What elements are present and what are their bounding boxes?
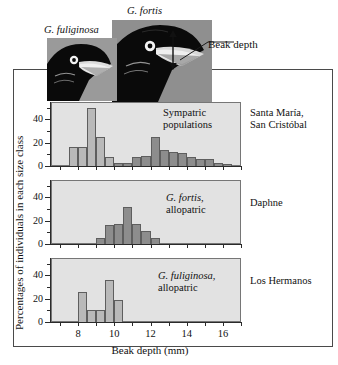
x-axis-tick bbox=[169, 322, 170, 326]
x-axis-title: Beak depth (mm) bbox=[75, 344, 225, 356]
histogram-bar bbox=[187, 157, 196, 166]
y-axis-minor-tick bbox=[47, 264, 50, 265]
histogram-bar bbox=[160, 150, 169, 166]
y-axis-minor-tick bbox=[47, 310, 50, 311]
x-axis-tick bbox=[78, 244, 79, 248]
y-axis-tick bbox=[45, 275, 50, 276]
panel-3-location: Los Hermanos bbox=[250, 275, 312, 287]
panel-2-location: Daphne bbox=[250, 197, 283, 209]
histogram-bar bbox=[151, 137, 160, 166]
x-axis-tick bbox=[60, 166, 61, 170]
y-axis-tick bbox=[45, 119, 50, 120]
panel-2-note: G. fortis, allopatric bbox=[166, 192, 206, 215]
histogram-bar bbox=[87, 108, 96, 166]
x-axis-tick-label: 12 bbox=[142, 328, 160, 339]
x-axis-tick-label: 8 bbox=[69, 328, 87, 339]
histogram-bar bbox=[132, 157, 141, 166]
x-axis-tick bbox=[78, 166, 79, 170]
x-axis-tick bbox=[169, 166, 170, 170]
panel-3-note-line1: G. fuliginosa, bbox=[158, 270, 215, 282]
y-axis-minor-tick bbox=[47, 209, 50, 210]
x-axis-tick bbox=[187, 166, 188, 170]
y-axis-minor-tick bbox=[47, 131, 50, 132]
beak-depth-annotation: Beak depth bbox=[208, 38, 258, 50]
x-axis-tick bbox=[132, 166, 133, 170]
histogram-bar bbox=[196, 159, 205, 166]
histogram-bar bbox=[105, 157, 114, 166]
panel-1-note-line2: populations bbox=[163, 119, 212, 131]
x-axis-tick bbox=[151, 166, 152, 170]
y-axis-tick-label: 40 bbox=[21, 113, 43, 124]
beak-depth-double-arrow-icon bbox=[166, 30, 180, 70]
x-axis-tick bbox=[241, 244, 242, 248]
histogram-bar bbox=[132, 224, 141, 244]
panel-3-note: G. fuliginosa, allopatric bbox=[158, 270, 215, 293]
histogram-bar bbox=[96, 310, 105, 322]
histogram-bar bbox=[78, 292, 87, 322]
x-axis-tick bbox=[187, 322, 188, 326]
histogram-bar bbox=[141, 156, 150, 166]
y-axis-minor-tick bbox=[47, 108, 50, 109]
x-axis-tick-label: 14 bbox=[178, 328, 196, 339]
y-axis-minor-tick bbox=[47, 186, 50, 187]
bars-panel-sympatric bbox=[51, 102, 241, 166]
x-axis-tick bbox=[205, 166, 206, 170]
x-axis-tick bbox=[78, 322, 79, 326]
y-axis-tick bbox=[45, 299, 50, 300]
histogram-bar bbox=[178, 153, 187, 166]
y-axis-tick bbox=[45, 166, 50, 167]
histogram-bar bbox=[141, 231, 150, 244]
y-axis-tick bbox=[45, 221, 50, 222]
x-axis-tick bbox=[151, 322, 152, 326]
x-axis-tick bbox=[169, 244, 170, 248]
panel-1-location-line1: Santa María, bbox=[250, 107, 307, 119]
x-axis-tick bbox=[132, 322, 133, 326]
histogram-bar bbox=[123, 207, 132, 244]
x-axis-tick bbox=[114, 322, 115, 326]
x-axis-tick bbox=[241, 322, 242, 326]
y-axis-minor-tick bbox=[47, 287, 50, 288]
g-fuliginosa-bird-illustration bbox=[47, 38, 117, 101]
histogram-bar bbox=[114, 300, 123, 322]
histogram-bar bbox=[205, 159, 214, 166]
x-axis-tick bbox=[223, 322, 224, 326]
x-axis-tick bbox=[96, 244, 97, 248]
x-axis-tick bbox=[187, 244, 188, 248]
y-axis-tick bbox=[45, 143, 50, 144]
panel-1-note-line1: Sympatric bbox=[163, 107, 212, 119]
histogram-bar bbox=[105, 280, 114, 322]
histogram-bar bbox=[78, 147, 87, 166]
histogram-bar bbox=[96, 137, 105, 166]
y-axis-tick bbox=[45, 197, 50, 198]
y-axis-tick bbox=[45, 244, 50, 245]
photo-label-g-fortis: G. fortis bbox=[127, 5, 162, 16]
x-axis-tick bbox=[96, 322, 97, 326]
y-axis-minor-tick bbox=[47, 232, 50, 233]
photo-label-g-fuliginosa: G. fuliginosa bbox=[44, 24, 99, 35]
x-axis-tick bbox=[114, 166, 115, 170]
x-axis-tick bbox=[205, 322, 206, 326]
x-axis-tick bbox=[223, 166, 224, 170]
histogram-bar bbox=[169, 152, 178, 166]
x-axis-tick bbox=[114, 244, 115, 248]
x-axis-tick-label: 10 bbox=[105, 328, 123, 339]
y-axis-panel-2 bbox=[50, 180, 51, 245]
panel-1-location-line2: San Cristóbal bbox=[250, 119, 307, 131]
x-axis-tick bbox=[205, 244, 206, 248]
x-axis-tick bbox=[60, 244, 61, 248]
panel-2-note-line2: allopatric bbox=[166, 204, 206, 216]
histogram-bar bbox=[69, 147, 78, 166]
y-axis-panel-1 bbox=[50, 102, 51, 167]
x-axis-tick-label: 16 bbox=[214, 328, 232, 339]
y-axis-minor-tick bbox=[47, 154, 50, 155]
y-axis-title: Percentages of individuals in each size … bbox=[13, 136, 25, 330]
figure-root: G. fortis G. fuliginosa Beak depth 02040… bbox=[0, 0, 338, 365]
x-axis-tick bbox=[151, 244, 152, 248]
panel-3-note-line2: allopatric bbox=[158, 282, 215, 294]
histogram-bar bbox=[87, 310, 96, 322]
histogram-bar bbox=[105, 225, 114, 244]
bars-panel-fortis-allopatric bbox=[51, 180, 241, 244]
x-axis-tick bbox=[241, 166, 242, 170]
x-axis-tick bbox=[96, 166, 97, 170]
panel-1-location: Santa María, San Cristóbal bbox=[250, 107, 307, 131]
